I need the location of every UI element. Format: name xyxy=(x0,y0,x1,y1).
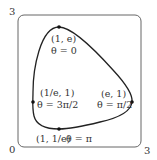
point-label-coord: (1/e, 1) xyxy=(40,87,74,98)
point-label-theta: θ = 3π/2 xyxy=(37,99,78,110)
point-theta-3pi-over-2 xyxy=(31,100,35,104)
point-label-coord: (e, 1) xyxy=(101,88,126,99)
x-max-label: 3 xyxy=(144,145,150,156)
curve-diagram: 3 0 3 (1, e) θ = 0 (e, 1) θ = π/2 (1, 1/… xyxy=(0,0,157,160)
y-max-label: 3 xyxy=(9,6,15,17)
point-theta-pi xyxy=(57,127,61,131)
point-label-theta: θ = π/2 xyxy=(97,99,132,110)
point-label-coord: (1, e) xyxy=(51,33,76,44)
x-min-label: 0 xyxy=(9,144,15,155)
closed-curve xyxy=(33,27,132,129)
point-theta-0 xyxy=(57,25,61,29)
point-label-theta: θ = π xyxy=(66,133,92,144)
point-label-theta: θ = 0 xyxy=(51,45,77,56)
